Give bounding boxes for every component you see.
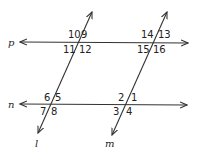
- label-m: m: [105, 138, 114, 149]
- angle-10: 10: [68, 29, 81, 40]
- angle-6: 6: [44, 92, 50, 103]
- diagram-canvas: p n l m 10 9 11 12 14 13 15 16 6 5 7 8 2…: [0, 0, 200, 155]
- angle-7: 7: [40, 106, 46, 117]
- angle-3: 3: [113, 106, 119, 117]
- label-n: n: [8, 99, 14, 110]
- angle-2: 2: [118, 92, 124, 103]
- angle-15: 15: [137, 44, 150, 55]
- line-n: [20, 104, 187, 105]
- angle-8: 8: [51, 106, 57, 117]
- angle-12: 12: [79, 44, 92, 55]
- angle-16: 16: [153, 44, 166, 55]
- angle-4: 4: [126, 106, 132, 117]
- label-l: l: [35, 138, 38, 149]
- angle-11: 11: [63, 44, 76, 55]
- angle-5: 5: [55, 92, 61, 103]
- angle-9: 9: [81, 29, 87, 40]
- label-p: p: [8, 37, 15, 48]
- line-p: [20, 42, 188, 43]
- angle-1: 1: [131, 92, 137, 103]
- angle-13: 13: [158, 29, 171, 40]
- angle-14: 14: [141, 29, 154, 40]
